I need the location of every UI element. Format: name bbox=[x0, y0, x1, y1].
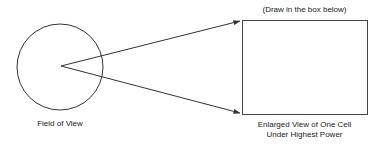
field-of-view-label: Field of View bbox=[20, 119, 100, 129]
arrow-to-box-top bbox=[61, 21, 240, 66]
enlarged-view-caption-line1: Enlarged View of One Cell bbox=[232, 120, 377, 130]
arrow-to-box-bottom bbox=[61, 66, 240, 113]
enlarged-view-caption: Enlarged View of One Cell Under Highest … bbox=[232, 120, 377, 140]
draw-instruction: (Draw in the box below) bbox=[242, 5, 367, 15]
field-of-view-circle bbox=[17, 24, 103, 110]
enlarged-view-caption-line2: Under Highest Power bbox=[232, 130, 377, 140]
drawing-box[interactable] bbox=[243, 21, 368, 115]
